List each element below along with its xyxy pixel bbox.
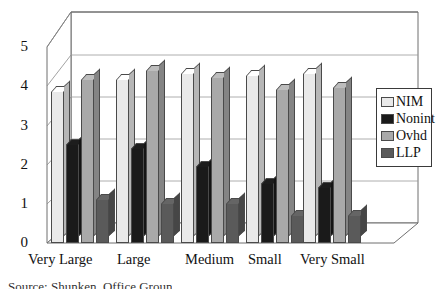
- legend-label: NIM: [396, 95, 423, 109]
- legend-swatch: [381, 97, 394, 107]
- legend-swatch: [381, 131, 394, 141]
- bar-side-face: [361, 204, 367, 236]
- bar-front-face: [161, 204, 174, 243]
- bar-nim[interactable]: [51, 92, 64, 243]
- bar-llp[interactable]: [226, 204, 239, 243]
- bar-nim[interactable]: [116, 80, 129, 243]
- bar-front-face: [246, 76, 259, 243]
- bar-group: [51, 47, 111, 243]
- bar-nonint[interactable]: [131, 149, 144, 243]
- legend-swatch: [381, 114, 394, 124]
- bar-ovhd[interactable]: [146, 71, 159, 243]
- bar-group: [303, 47, 363, 243]
- bar-nonint[interactable]: [261, 184, 274, 243]
- y-tick-2: 2: [12, 157, 28, 172]
- bar-front-face: [66, 145, 79, 243]
- legend-item-llp[interactable]: LLP: [381, 144, 428, 161]
- bar-ovhd[interactable]: [333, 88, 346, 243]
- bar-front-face: [131, 149, 144, 243]
- legend-label: LLP: [396, 146, 421, 160]
- bar-ovhd[interactable]: [276, 90, 289, 243]
- legend-label: Ovhd: [396, 129, 427, 143]
- bar-front-face: [261, 184, 274, 243]
- legend-item-nim[interactable]: NIM: [381, 93, 428, 110]
- bar-front-face: [348, 216, 361, 243]
- legend-swatch: [381, 148, 394, 158]
- bar-nim[interactable]: [246, 76, 259, 243]
- y-tick-1: 1: [12, 196, 28, 211]
- legend-label: Nonint: [396, 112, 435, 126]
- bar-front-face: [318, 188, 331, 243]
- y-tick-3: 3: [12, 118, 28, 133]
- figure-caption: Source: Shunken, Office Groun: [8, 279, 172, 289]
- bar-nonint[interactable]: [196, 167, 209, 243]
- bar-side-face: [239, 192, 245, 236]
- y-tick-5: 5: [12, 39, 28, 54]
- x-axis-label: Large: [117, 252, 151, 267]
- bar-nonint[interactable]: [66, 145, 79, 243]
- bar-llp[interactable]: [161, 204, 174, 243]
- bar-front-face: [81, 80, 94, 243]
- bar-front-face: [146, 71, 159, 243]
- y-tick-0: 0: [12, 235, 28, 250]
- bar-front-face: [181, 74, 194, 243]
- bar-front-face: [51, 92, 64, 243]
- bar-nonint[interactable]: [318, 188, 331, 243]
- bar-chart: 5 4 3 2 1 0 Very LargeLargeMediumSmallVe…: [0, 0, 438, 289]
- bar-front-face: [276, 90, 289, 243]
- y-tick-4: 4: [12, 78, 28, 93]
- x-axis-label: Very Small: [300, 252, 365, 267]
- bar-llp[interactable]: [348, 216, 361, 243]
- bar-front-face: [116, 80, 129, 243]
- legend-item-ovhd[interactable]: Ovhd: [381, 127, 428, 144]
- x-axis-label: Medium: [185, 252, 234, 267]
- x-axis-label: Very Large: [28, 252, 93, 267]
- chart-legend: NIMNonintOvhdLLP: [376, 88, 432, 167]
- legend-item-nonint[interactable]: Nonint: [381, 110, 428, 127]
- bar-front-face: [96, 200, 109, 243]
- bar-front-face: [226, 204, 239, 243]
- x-axis-label: Small: [248, 252, 282, 267]
- bar-ovhd[interactable]: [211, 78, 224, 243]
- bar-front-face: [211, 78, 224, 243]
- bar-group: [181, 47, 241, 243]
- bar-front-face: [196, 167, 209, 243]
- bar-front-face: [303, 74, 316, 243]
- bar-nim[interactable]: [181, 74, 194, 243]
- bar-llp[interactable]: [96, 200, 109, 243]
- bar-ovhd[interactable]: [81, 80, 94, 243]
- bar-group: [116, 47, 176, 243]
- bar-side-face: [174, 192, 180, 236]
- bar-group: [246, 47, 306, 243]
- bar-side-face: [109, 188, 115, 236]
- plot-area: [47, 47, 365, 243]
- bar-nim[interactable]: [303, 74, 316, 243]
- bar-front-face: [333, 88, 346, 243]
